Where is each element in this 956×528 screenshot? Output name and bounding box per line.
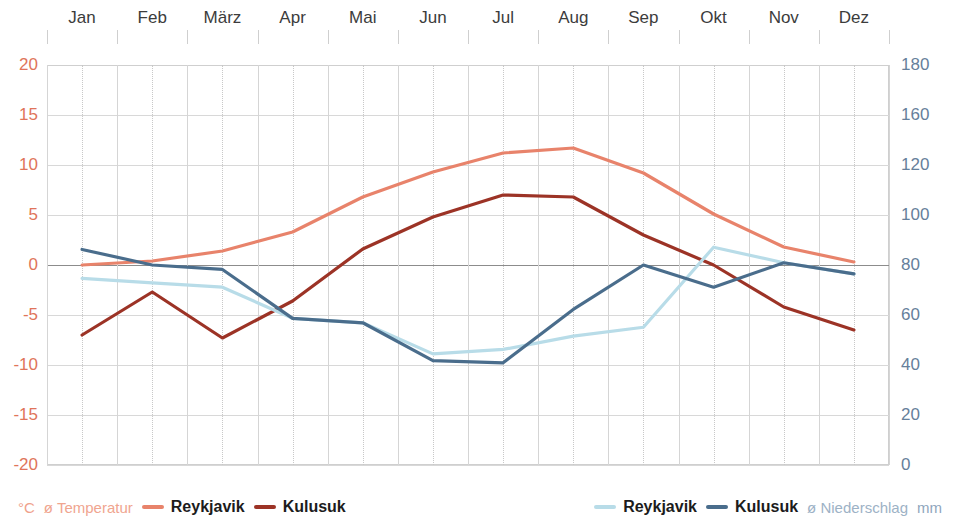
x-axis-tick xyxy=(328,30,329,44)
y-right-tick-0: 0 xyxy=(901,455,910,475)
legend-unit-celsius: °C xyxy=(18,499,35,516)
y-left-tick-20: 20 xyxy=(19,55,38,75)
x-axis-tick xyxy=(187,30,188,44)
y-left-tick--15: -15 xyxy=(13,405,38,425)
x-axis-label-jun: Jun xyxy=(419,8,446,28)
legend-swatch-prec-kulusuk xyxy=(706,505,728,509)
y-right-tick-40: 40 xyxy=(901,355,920,375)
y-right-tick-80: 80 xyxy=(901,255,920,275)
legend-swatch-temp-kulusuk xyxy=(254,505,276,509)
chart-legend: °C ø Temperatur Reykjavik Kulusuk Reykja… xyxy=(0,494,956,528)
x-axis-label-apr: Apr xyxy=(279,8,305,28)
x-axis-tick xyxy=(679,30,680,44)
x-axis-tick xyxy=(468,30,469,44)
x-axis-tick xyxy=(608,30,609,44)
y-axis-right-precipitation: 180160120100806040200 xyxy=(901,65,956,465)
legend-caption-precipitation: ø Niederschlag xyxy=(807,499,908,516)
x-axis-label-dez: Dez xyxy=(839,8,869,28)
legend-swatch-prec-reykjavik xyxy=(594,505,616,509)
x-axis-tick xyxy=(538,30,539,44)
series-lines xyxy=(47,65,889,465)
y-axis-left-temperature: 20151050-5-10-15-20 xyxy=(0,65,38,465)
legend-item-temp-kulusuk[interactable]: Kulusuk xyxy=(254,498,346,516)
x-axis-label-nov: Nov xyxy=(769,8,799,28)
y-right-tick-160: 160 xyxy=(901,105,929,125)
legend-caption-temperature: ø Temperatur xyxy=(44,499,133,516)
x-axis-label-jan: Jan xyxy=(68,8,95,28)
y-right-tick-180: 180 xyxy=(901,55,929,75)
x-axis-month-labels: JanFebMärzAprMaiJunJulAugSepOktNovDez xyxy=(0,0,956,44)
y-left-tick-15: 15 xyxy=(19,105,38,125)
x-axis-label-okt: Okt xyxy=(700,8,726,28)
legend-item-temp-reykjavik[interactable]: Reykjavik xyxy=(142,498,245,516)
y-left-tick--20: -20 xyxy=(13,455,38,475)
legend-label-prec-reykjavik: Reykjavik xyxy=(623,498,697,516)
x-axis-tick xyxy=(398,30,399,44)
series-line--niederschlag-kulusuk xyxy=(82,249,854,362)
x-axis-label-märz: März xyxy=(204,8,242,28)
legend-swatch-temp-reykjavik xyxy=(142,505,164,509)
y-left-tick-0: 0 xyxy=(29,255,38,275)
x-axis-label-sep: Sep xyxy=(628,8,658,28)
series-line--niederschlag-reykjavik xyxy=(82,247,854,354)
x-axis-label-aug: Aug xyxy=(558,8,588,28)
legend-label-temp-reykjavik: Reykjavik xyxy=(171,498,245,516)
x-axis-label-jul: Jul xyxy=(492,8,514,28)
y-right-tick-20: 20 xyxy=(901,405,920,425)
x-axis-tick xyxy=(889,30,890,44)
legend-item-prec-kulusuk[interactable]: Kulusuk xyxy=(706,498,798,516)
legend-unit-mm: mm xyxy=(917,499,942,516)
legend-precipitation-group: Reykjavik Kulusuk ø Niederschlag mm xyxy=(594,498,942,516)
y-right-tick-60: 60 xyxy=(901,305,920,325)
legend-label-prec-kulusuk: Kulusuk xyxy=(735,498,798,516)
x-axis-tick xyxy=(819,30,820,44)
plot-area xyxy=(47,65,889,465)
gridline-horizontal xyxy=(47,465,889,466)
x-axis-label-feb: Feb xyxy=(138,8,167,28)
y-right-tick-120: 120 xyxy=(901,155,929,175)
climate-chart: JanFebMärzAprMaiJunJulAugSepOktNovDez 20… xyxy=(0,0,956,528)
y-left-tick--5: -5 xyxy=(23,305,38,325)
x-axis-label-mai: Mai xyxy=(349,8,376,28)
legend-item-prec-reykjavik[interactable]: Reykjavik xyxy=(594,498,697,516)
y-left-tick-5: 5 xyxy=(29,205,38,225)
x-axis-tick xyxy=(47,30,48,44)
y-left-tick-10: 10 xyxy=(19,155,38,175)
legend-label-temp-kulusuk: Kulusuk xyxy=(283,498,346,516)
x-axis-tick xyxy=(258,30,259,44)
x-axis-tick xyxy=(117,30,118,44)
gridline-vertical xyxy=(889,65,890,465)
x-axis-tick xyxy=(749,30,750,44)
y-left-tick--10: -10 xyxy=(13,355,38,375)
y-right-tick-100: 100 xyxy=(901,205,929,225)
legend-temperature-group: °C ø Temperatur Reykjavik Kulusuk xyxy=(18,498,346,516)
